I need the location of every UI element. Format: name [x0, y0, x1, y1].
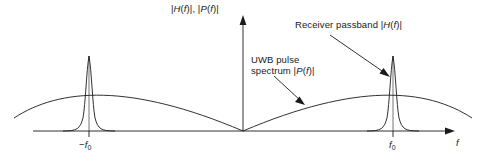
figure-canvas [0, 0, 482, 162]
uwb-leader-arrowhead [295, 97, 305, 106]
x-tick-label-negative-f0: −f0 [79, 139, 91, 153]
y-axis [240, 15, 247, 131]
x-axis-arrowhead [445, 128, 455, 135]
y-axis-arrowhead [240, 15, 247, 25]
receiver-passband-leader-arrow [330, 35, 390, 77]
annotation-receiver-passband: Receiver passband |H(f)| [295, 19, 402, 30]
ultra-wideband-spectrum-figure: |H(f)|, |P(f)| Receiver passband |H(f)| … [0, 0, 482, 162]
x-axis-ticks [89, 131, 393, 137]
receiver-passband-curve [63, 56, 419, 131]
receiver-leader-arrowhead [380, 68, 391, 77]
y-axis-label: |H(f)|, |P(f)| [171, 3, 219, 14]
uwb-spectrum-leader-arrow [274, 76, 305, 105]
x-axis-label: f [456, 137, 459, 148]
x-tick-label-positive-f0: f0 [389, 139, 396, 153]
annotation-uwb-pulse-spectrum: UWB pulsespectrum |P(f)| [251, 54, 314, 76]
